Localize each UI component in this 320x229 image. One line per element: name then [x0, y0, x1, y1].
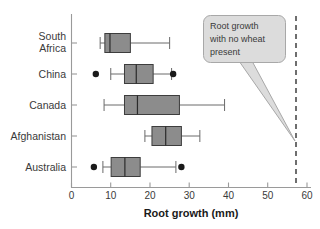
- box-plot-canada: [104, 96, 224, 115]
- x-tick-label-20: 20: [144, 190, 156, 201]
- box-plot-china: [93, 65, 177, 84]
- box-iqr: [124, 96, 179, 115]
- x-tick-label-40: 40: [223, 190, 235, 201]
- category-label-south-africa-line2: Africa: [39, 42, 66, 54]
- category-label-afghanistan: Afghanistan: [11, 130, 67, 142]
- box-iqr: [152, 127, 181, 146]
- category-labels: South Africa China Canada Afghanistan Au…: [11, 30, 67, 173]
- callout-line-1: Root growth: [210, 21, 259, 31]
- category-label-south-africa-line1: South: [39, 30, 67, 42]
- category-label-australia: Australia: [25, 161, 66, 173]
- box-plot-australia: [91, 158, 185, 177]
- x-tick-labels: 0 10 20 30 40 50 60: [69, 190, 313, 201]
- callout-line-2: with no wheat: [209, 34, 266, 44]
- category-label-china: China: [39, 68, 67, 80]
- x-tick-label-50: 50: [262, 190, 274, 201]
- x-tick-label-30: 30: [184, 190, 196, 201]
- outlier-point: [91, 164, 97, 170]
- x-tick-marks: [72, 183, 308, 188]
- chart-canvas: 0 10 20 30 40 50 60 South Africa China C…: [0, 0, 320, 229]
- y-tick-marks: [72, 43, 78, 167]
- category-label-canada: Canada: [29, 99, 66, 111]
- outlier-point: [178, 164, 184, 170]
- outlier-point: [170, 71, 176, 77]
- callout-tail: [239, 61, 295, 141]
- box-iqr: [105, 34, 131, 53]
- x-tick-label-0: 0: [69, 190, 75, 201]
- callout-line-3: present: [210, 47, 241, 57]
- x-tick-label-60: 60: [301, 190, 313, 201]
- box-iqr: [124, 65, 153, 84]
- outlier-point: [93, 71, 99, 77]
- box-plot-afghanistan: [145, 127, 200, 146]
- x-tick-label-10: 10: [105, 190, 117, 201]
- box-iqr: [111, 158, 140, 177]
- x-axis-title: Root growth (mm): [144, 207, 239, 219]
- box-plot-figure: 0 10 20 30 40 50 60 South Africa China C…: [0, 0, 320, 229]
- box-plot-south-africa: [100, 34, 169, 53]
